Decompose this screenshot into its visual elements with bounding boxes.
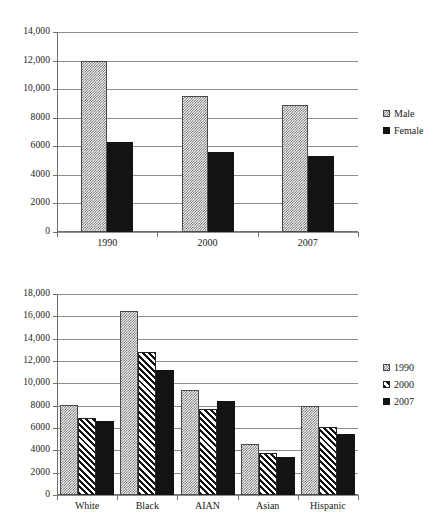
x-axis-category-label: AIAN: [195, 501, 220, 511]
y-axis-tick-label: 14,000: [23, 27, 50, 37]
gridline: [57, 383, 358, 384]
legend-label: Female: [394, 126, 423, 136]
legend-item-2000: 2000: [383, 376, 414, 393]
chart-gender-by-year: MaleFemale 0200040006000800010,00012,000…: [0, 0, 433, 263]
y-axis-tick-label: 8000: [31, 113, 50, 123]
x-axis-tick-mark: [298, 495, 299, 500]
y-axis-line: [57, 32, 58, 232]
bar-2000-male: [182, 96, 208, 232]
y-axis-tick-label: 6000: [31, 142, 50, 152]
legend-swatch-icon: [383, 364, 390, 371]
x-axis-tick-mark: [238, 495, 239, 500]
x-axis-category-label: 2007: [298, 238, 318, 248]
bar-black-1990: [120, 311, 138, 495]
x-axis-tick-mark: [358, 232, 359, 237]
gridline: [57, 294, 358, 295]
x-axis-category-label: 1990: [97, 238, 117, 248]
y-axis-tick-label: 0: [45, 490, 50, 500]
gridline: [57, 316, 358, 317]
legend-item-male: Male: [383, 105, 423, 122]
x-axis-tick-mark: [177, 495, 178, 500]
plot-region-race: [57, 294, 358, 495]
plot-area: [57, 32, 358, 232]
x-axis-tick-mark: [358, 495, 359, 500]
legend-gender: MaleFemale: [383, 105, 423, 139]
bar-white-2000: [78, 418, 96, 495]
x-axis-category-label: 2000: [198, 238, 218, 248]
gridline: [57, 361, 358, 362]
bar-aian-2007: [217, 401, 235, 495]
bar-asian-2007: [277, 457, 295, 495]
bar-aian-1990: [181, 390, 199, 495]
bar-2000-female: [208, 152, 234, 232]
bar-asian-1990: [241, 444, 259, 495]
bar-black-2000: [138, 352, 156, 495]
y-axis-tick-label: 2000: [31, 199, 50, 209]
bar-white-1990: [60, 405, 78, 495]
y-axis-tick-label: 16,000: [23, 312, 50, 322]
bar-hispanic-2000: [319, 427, 337, 495]
legend-item-2007: 2007: [383, 393, 414, 410]
y-axis-tick-label: 14,000: [23, 334, 50, 344]
bar-1990-male: [81, 61, 107, 232]
legend-swatch-icon: [383, 110, 390, 117]
legend-label: 2007: [394, 397, 414, 407]
x-axis-category-label: Black: [136, 501, 159, 511]
legend-item-1990: 1990: [383, 359, 414, 376]
x-axis-category-label: Hispanic: [310, 501, 346, 511]
gridline: [57, 339, 358, 340]
legend-swatch-icon: [383, 381, 390, 388]
plot-area: [57, 294, 358, 495]
y-axis-tick-label: 12,000: [23, 356, 50, 366]
y-axis-tick-label: 2000: [31, 468, 50, 478]
x-axis-category-label: Asian: [256, 501, 279, 511]
bar-black-2007: [156, 370, 174, 495]
x-axis-tick-mark: [157, 232, 158, 237]
x-axis-tick-mark: [258, 232, 259, 237]
bar-2007-male: [282, 105, 308, 232]
x-axis-tick-mark: [57, 495, 58, 500]
legend-race: 199020002007: [383, 359, 414, 410]
bar-hispanic-1990: [301, 406, 319, 495]
legend-swatch-icon: [383, 127, 390, 134]
y-axis-line: [57, 294, 58, 495]
legend-item-female: Female: [383, 122, 423, 139]
plot-region-gender: [57, 32, 358, 232]
x-axis-category-label: White: [75, 501, 99, 511]
y-axis-tick-label: 4000: [31, 170, 50, 180]
gridline: [57, 232, 358, 233]
bar-hispanic-2007: [337, 434, 355, 495]
legend-swatch-icon: [383, 398, 390, 405]
gridline: [57, 495, 358, 496]
bar-asian-2000: [259, 453, 277, 495]
gridline: [57, 32, 358, 33]
x-axis-tick-mark: [117, 495, 118, 500]
y-axis-tick-label: 4000: [31, 446, 50, 456]
y-axis-tick-label: 10,000: [23, 84, 50, 94]
bar-2007-female: [308, 156, 334, 232]
y-axis-tick-label: 12,000: [23, 56, 50, 66]
chart-race-by-year: 199020002007 0200040006000800010,00012,0…: [0, 263, 433, 526]
bar-white-2007: [96, 421, 114, 495]
legend-label: Male: [394, 109, 415, 119]
bar-1990-female: [107, 142, 133, 232]
y-axis-tick-label: 8000: [31, 401, 50, 411]
y-axis-tick-label: 6000: [31, 423, 50, 433]
y-axis-tick-label: 18,000: [23, 289, 50, 299]
y-axis-tick-label: 10,000: [23, 379, 50, 389]
x-axis-tick-mark: [57, 232, 58, 237]
y-axis-tick-label: 0: [45, 227, 50, 237]
bar-aian-2000: [199, 409, 217, 495]
legend-label: 2000: [394, 380, 414, 390]
legend-label: 1990: [394, 363, 414, 373]
